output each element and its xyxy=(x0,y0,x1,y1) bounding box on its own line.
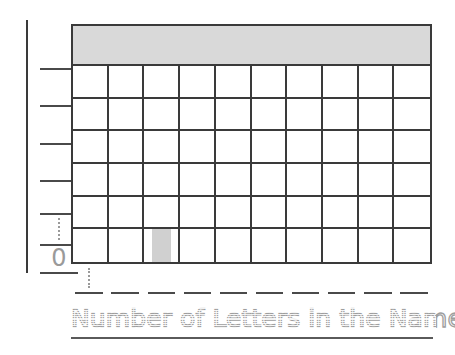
grid-cell[interactable] xyxy=(359,229,395,262)
grid-cell[interactable] xyxy=(180,66,216,99)
grid-cell[interactable] xyxy=(73,197,109,230)
x-axis-traced-one-icon xyxy=(88,268,90,288)
grid-cell[interactable] xyxy=(287,131,323,164)
x-axis-write-dash xyxy=(184,292,211,294)
grid-cell[interactable] xyxy=(144,197,180,230)
grid-cell[interactable] xyxy=(180,229,216,262)
grid-cell[interactable] xyxy=(252,197,288,230)
grid-cell[interactable] xyxy=(252,131,288,164)
x-axis-write-dash xyxy=(364,292,391,294)
grid-cell[interactable] xyxy=(394,229,430,262)
grid-cell[interactable] xyxy=(73,131,109,164)
grid-cell[interactable] xyxy=(216,131,252,164)
x-axis-label-slot[interactable] xyxy=(251,292,287,295)
x-axis-label-slot[interactable] xyxy=(71,292,107,295)
grid-cell[interactable] xyxy=(180,99,216,132)
grid-cell[interactable] xyxy=(359,197,395,230)
grid-cell[interactable] xyxy=(109,164,145,197)
x-axis-label-slot[interactable] xyxy=(360,292,396,295)
x-axis-label-slot[interactable] xyxy=(215,292,251,295)
grid-cell[interactable] xyxy=(109,99,145,132)
y-guide-line-0 xyxy=(40,272,78,274)
grid-cell[interactable] xyxy=(73,99,109,132)
bar-graph-worksheet: 0 xyxy=(0,0,455,355)
x-axis-write-dash xyxy=(400,292,427,294)
grid-cell[interactable] xyxy=(109,197,145,230)
grid-cell[interactable] xyxy=(73,229,109,262)
x-axis-label-slots xyxy=(71,292,432,295)
y-axis-traced-one-icon xyxy=(58,218,60,240)
grid-cell[interactable] xyxy=(323,164,359,197)
grid-cell[interactable] xyxy=(287,99,323,132)
grid-cell[interactable] xyxy=(394,197,430,230)
grid-cell[interactable] xyxy=(394,66,430,99)
grid-cell[interactable] xyxy=(359,66,395,99)
x-axis-write-dash xyxy=(148,292,175,294)
grid-cell[interactable] xyxy=(394,164,430,197)
x-axis-write-dash xyxy=(220,292,247,294)
grid-cell[interactable] xyxy=(323,99,359,132)
x-axis-title: Number of Letters in the Name xyxy=(71,302,436,336)
grid-body xyxy=(73,66,430,262)
graph-grid xyxy=(71,24,432,264)
x-axis-write-dash xyxy=(256,292,283,294)
x-axis-label-slot[interactable] xyxy=(179,292,215,295)
grid-cell[interactable] xyxy=(180,131,216,164)
x-axis-write-dash xyxy=(292,292,319,294)
x-axis-write-dash xyxy=(111,292,138,294)
grid-header-band xyxy=(73,26,430,66)
grid-cell[interactable] xyxy=(287,197,323,230)
grid-cell[interactable] xyxy=(73,164,109,197)
grid-cell[interactable] xyxy=(216,197,252,230)
grid-cell[interactable] xyxy=(144,131,180,164)
grid-cell[interactable] xyxy=(359,164,395,197)
grid-cell[interactable] xyxy=(144,66,180,99)
grid-cell[interactable] xyxy=(323,197,359,230)
grid-cell-filled[interactable] xyxy=(144,229,180,262)
grid-cell[interactable] xyxy=(180,197,216,230)
bar-fill xyxy=(152,229,171,262)
grid-cell[interactable] xyxy=(109,229,145,262)
y-axis-line xyxy=(26,20,28,273)
x-axis-write-dash xyxy=(75,292,102,294)
grid-cell[interactable] xyxy=(73,66,109,99)
grid-cell[interactable] xyxy=(252,164,288,197)
grid-cell[interactable] xyxy=(216,66,252,99)
x-axis-title-baseline xyxy=(71,337,433,339)
x-axis-label-slot[interactable] xyxy=(107,292,143,295)
grid-cell[interactable] xyxy=(109,66,145,99)
grid-cell[interactable] xyxy=(287,66,323,99)
x-axis-label-slot[interactable] xyxy=(288,292,324,295)
grid-cell[interactable] xyxy=(252,229,288,262)
x-axis-label-slot[interactable] xyxy=(396,292,432,295)
grid-cell[interactable] xyxy=(180,164,216,197)
grid-cell[interactable] xyxy=(216,164,252,197)
grid-cell[interactable] xyxy=(252,66,288,99)
grid-cell[interactable] xyxy=(359,99,395,132)
grid-cell[interactable] xyxy=(287,164,323,197)
grid-cell[interactable] xyxy=(252,99,288,132)
grid-cell[interactable] xyxy=(394,99,430,132)
grid-cell[interactable] xyxy=(109,131,145,164)
grid-cell[interactable] xyxy=(216,229,252,262)
grid-cell[interactable] xyxy=(287,229,323,262)
grid-cell[interactable] xyxy=(394,131,430,164)
grid-cell[interactable] xyxy=(323,66,359,99)
grid-cell[interactable] xyxy=(323,229,359,262)
x-axis-write-dash xyxy=(328,292,355,294)
grid-cell[interactable] xyxy=(323,131,359,164)
grid-cell[interactable] xyxy=(144,164,180,197)
grid-cell[interactable] xyxy=(144,99,180,132)
grid-cell[interactable] xyxy=(216,99,252,132)
x-axis-label-slot[interactable] xyxy=(143,292,179,295)
x-axis-label-slot[interactable] xyxy=(324,292,360,295)
grid-cell[interactable] xyxy=(359,131,395,164)
